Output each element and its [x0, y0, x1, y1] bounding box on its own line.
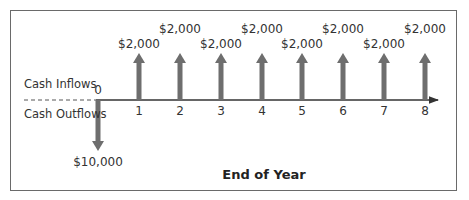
inflow-arrow-icon [296, 53, 308, 100]
x-axis-title: End of Year [222, 167, 305, 182]
inflow-arrow-icon [174, 53, 186, 100]
period-label: 3 [217, 104, 225, 118]
period-label: 7 [380, 104, 388, 118]
period-label: 1 [135, 104, 143, 118]
inflow-arrow-icon [337, 53, 349, 100]
cash-inflows-label: Cash Inflows [24, 77, 96, 91]
inflow-amount: $2,000 [322, 22, 364, 36]
period-label: 0 [94, 83, 102, 97]
inflow-amount: $2,000 [363, 37, 405, 51]
inflow-arrows [133, 53, 431, 100]
inflow-amount: $2,000 [118, 37, 160, 51]
inflow-amount: $2,000 [241, 22, 283, 36]
inflow-amount: $2,000 [200, 37, 242, 51]
inflow-amount: $2,000 [281, 37, 323, 51]
outflow-amount: $10,000 [73, 155, 123, 169]
period-label: 8 [421, 104, 429, 118]
period-label: 6 [339, 104, 347, 118]
period-label: 5 [298, 104, 306, 118]
inflow-arrow-icon [378, 53, 390, 100]
period-label: 2 [176, 104, 184, 118]
inflow-amount: $2,000 [159, 22, 201, 36]
inflow-arrow-icon [215, 53, 227, 100]
inflow-arrow-icon [419, 53, 431, 100]
period-label: 4 [258, 104, 266, 118]
inflow-amount: $2,000 [404, 22, 446, 36]
inflow-arrow-icon [256, 53, 268, 100]
cash-outflows-label: Cash Outflows [24, 107, 107, 121]
inflow-arrow-icon [133, 53, 145, 100]
